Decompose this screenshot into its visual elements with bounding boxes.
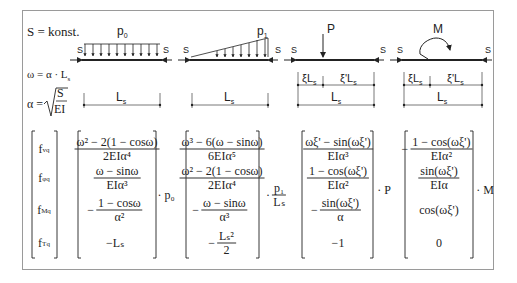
f-sub: Tq xyxy=(42,239,50,247)
load-label-P: P xyxy=(327,22,335,36)
denominator: EIα xyxy=(430,179,448,192)
axial-label: S xyxy=(485,45,491,55)
xi-text: ξL xyxy=(408,72,419,84)
numerator: ω − sinω xyxy=(94,165,141,179)
axial-label: S xyxy=(183,45,189,55)
alpha-label: α = xyxy=(27,97,43,112)
axial-label: S xyxy=(380,45,386,55)
m1-entry-2: ω − sinωEIα³ xyxy=(94,165,141,192)
m1-entry-4: −Lₛ xyxy=(106,236,124,251)
denominator: 2EIα⁴ xyxy=(208,179,236,192)
denominator: 2EIα⁴ xyxy=(103,150,131,163)
denominator: EIα² xyxy=(431,150,452,163)
m1-entry-3: −1 − cosωα² xyxy=(87,197,142,224)
m3-entry-2: 1 − cos(ωξ')EIα² xyxy=(307,165,369,192)
denominator: α xyxy=(337,211,343,224)
f-sub: φq xyxy=(42,174,50,182)
beam-point-load xyxy=(284,34,384,60)
m2-multiplier: · p₁Lₛ xyxy=(266,182,286,209)
xi-prime-sub: s xyxy=(460,79,464,86)
sign: − xyxy=(402,142,409,157)
numerator: ω² − 2(1 − cosω) xyxy=(180,165,265,179)
m3-multiplier: · P xyxy=(377,183,391,198)
xi-prime-text: ξ'L xyxy=(447,72,460,84)
axial-label: S xyxy=(397,45,403,55)
alpha-numerator: S xyxy=(57,86,64,101)
denominator: 2 xyxy=(223,244,229,257)
m4-multiplier: · M xyxy=(476,183,494,198)
denominator: α³ xyxy=(219,211,229,224)
m4-entry-3: cos(ωξ') xyxy=(419,203,458,218)
constant-label: S = konst. xyxy=(27,24,79,40)
axial-label: S xyxy=(163,45,169,55)
dim-label-xi: ξLs xyxy=(302,72,317,86)
axial-label: S xyxy=(77,45,83,55)
f-sub: vq xyxy=(43,145,50,153)
xi-sub: s xyxy=(313,79,317,86)
denominator: α² xyxy=(114,211,124,224)
dim-label-Ls: Ls xyxy=(224,90,234,105)
vector-label-fTq: fTq xyxy=(38,236,50,251)
dim-label-Ls: Ls xyxy=(331,90,341,105)
beam-triangular-load xyxy=(178,38,278,60)
denominator: Lₛ xyxy=(273,196,284,209)
axial-label: S xyxy=(291,45,297,55)
m2-entry-2: ω² − 2(1 − cosω)2EIα⁴ xyxy=(180,165,265,192)
load-label-M: M xyxy=(433,22,443,36)
denominator: EIα² xyxy=(327,179,348,192)
m4-entry-1: −1 − cos(ωξ')EIα² xyxy=(402,136,473,163)
sign: − xyxy=(87,203,94,218)
numerator: sin(ωξ') xyxy=(418,165,459,179)
Ls-sub: s xyxy=(338,98,342,105)
m2-entry-4: −Lₛ²2 xyxy=(208,230,236,257)
beam-uniform-load xyxy=(70,44,172,60)
numerator: 1 − cosω xyxy=(96,197,143,211)
dot: · xyxy=(266,188,270,203)
Ls-text: L xyxy=(437,90,444,104)
xi-text: ξL xyxy=(302,72,313,84)
sign: − xyxy=(311,203,318,218)
numerator: ω² − 2(1 − cosω) xyxy=(75,136,160,150)
dim-label-xi-prime: ξ'Ls xyxy=(340,72,357,86)
m1-entry-1: ω² − 2(1 − cosω)2EIα⁴ xyxy=(75,136,160,163)
m3-entry-1: ωξ' − sin(ωξ')EIα³ xyxy=(303,136,373,163)
Ls-sub: s xyxy=(123,98,127,105)
vector-label-fMq: fMq xyxy=(37,203,51,218)
numerator: ω³ − 6(ω − sinω) xyxy=(180,136,265,150)
numerator: 1 − cos(ωξ') xyxy=(307,165,369,179)
m2-entry-1: ω³ − 6(ω − sinω)6EIα⁵ xyxy=(180,136,265,163)
dim-label-xi-prime: ξ'Ls xyxy=(447,72,464,86)
p0-sub: 0 xyxy=(124,32,128,39)
Ls-text: L xyxy=(116,90,123,104)
omega-definition: ω = α · Ls xyxy=(27,68,70,83)
Ls-text: L xyxy=(224,90,231,104)
dim-label-Ls: Ls xyxy=(437,90,447,105)
m3-entry-3: −sin(ωξ')α xyxy=(311,197,361,224)
vector-label-fphiq: fφq xyxy=(38,171,50,186)
dim-label-Ls: Ls xyxy=(116,90,126,105)
numerator: p₁ xyxy=(272,182,286,196)
m2-entry-3: −ω − sinωα³ xyxy=(192,197,247,224)
vector-label-fvq: fvq xyxy=(39,142,50,157)
sign: − xyxy=(208,236,215,251)
Ls-text: L xyxy=(331,90,338,104)
numerator: sin(ωξ') xyxy=(320,197,361,211)
m3-entry-4: −1 xyxy=(332,236,345,251)
sign: − xyxy=(192,203,199,218)
xi-prime-text: ξ'L xyxy=(340,72,353,84)
m1-multiplier: · p₀ xyxy=(157,188,174,203)
p1-text: p xyxy=(257,24,264,38)
numerator: ω − sinω xyxy=(201,197,248,211)
m4-entry-2: sin(ωξ')EIα xyxy=(418,165,459,192)
load-label-p0: p0 xyxy=(117,24,128,39)
beam-moment-load xyxy=(390,38,492,60)
Ls-sub: s xyxy=(231,98,235,105)
xi-sub: s xyxy=(419,79,423,86)
f-sub: Mq xyxy=(41,206,51,214)
omega-def-text: ω = α · L xyxy=(27,68,68,80)
m4-entry-4: 0 xyxy=(436,236,442,251)
dim-label-xi: ξLs xyxy=(408,72,423,86)
xi-prime-sub: s xyxy=(353,79,357,86)
omega-def-sub: s xyxy=(68,75,71,83)
numerator: 1 − cos(ωξ') xyxy=(410,136,472,150)
